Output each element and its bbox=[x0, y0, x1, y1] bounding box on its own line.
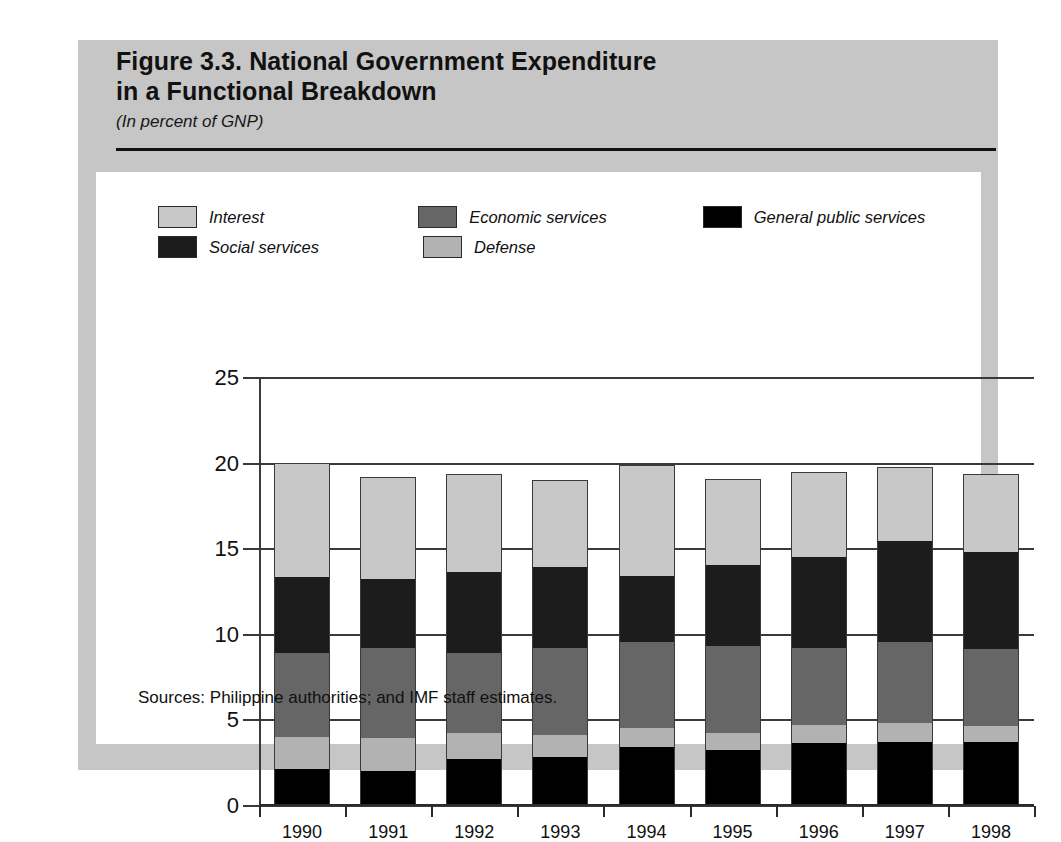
legend-swatch-general-public-services bbox=[703, 206, 742, 228]
x-axis-label-1997: 1997 bbox=[860, 822, 950, 842]
bar-segment bbox=[361, 579, 415, 647]
bar-segment bbox=[533, 481, 587, 567]
bar-segment bbox=[447, 475, 501, 573]
figure-title-line-2: in a Functional Breakdown bbox=[116, 76, 966, 106]
y-tick-5 bbox=[243, 719, 259, 721]
bar-segment bbox=[361, 738, 415, 771]
legend-label-social-services: Social services bbox=[209, 238, 319, 257]
legend-label-interest: Interest bbox=[209, 208, 264, 227]
x-tick bbox=[603, 806, 605, 817]
y-axis-label: 0 bbox=[193, 793, 239, 819]
legend-item-general-public-services: General public services bbox=[703, 204, 958, 230]
legend-item-interest: Interest bbox=[158, 204, 418, 230]
bar-segment bbox=[792, 743, 846, 805]
bar-segment bbox=[533, 735, 587, 757]
bar-segment bbox=[878, 468, 932, 542]
x-axis-label-1994: 1994 bbox=[602, 822, 692, 842]
bar-segment bbox=[706, 646, 760, 733]
x-axis-label-1993: 1993 bbox=[515, 822, 605, 842]
bar-1997[interactable] bbox=[877, 467, 933, 806]
x-tick bbox=[431, 806, 433, 817]
bar-segment bbox=[620, 466, 674, 576]
y-axis-label: 10 bbox=[193, 622, 239, 648]
bar-segment bbox=[706, 750, 760, 805]
bar-segment bbox=[964, 649, 1018, 726]
legend-row: Social services Defense bbox=[158, 234, 958, 260]
x-tick bbox=[259, 806, 261, 817]
bar-segment bbox=[964, 742, 1018, 805]
figure-heading: Figure 3.3. National Government Expendit… bbox=[116, 46, 966, 132]
bar-segment bbox=[706, 480, 760, 566]
legend-label-general-public-services: General public services bbox=[754, 208, 926, 227]
legend-item-economic-services: Economic services bbox=[418, 204, 703, 230]
legend-row: Interest Economic services General publi… bbox=[158, 204, 958, 230]
bar-segment bbox=[706, 733, 760, 750]
bar-segment bbox=[275, 464, 329, 577]
y-tick-0 bbox=[243, 805, 259, 807]
bar-1993[interactable] bbox=[532, 480, 588, 806]
bar-1996[interactable] bbox=[791, 472, 847, 806]
x-tick bbox=[517, 806, 519, 817]
bar-segment bbox=[792, 725, 846, 744]
legend-swatch-defense bbox=[423, 236, 462, 258]
y-axis-label: 20 bbox=[193, 451, 239, 477]
y-tick-25 bbox=[243, 377, 259, 379]
y-tick-20 bbox=[243, 463, 259, 465]
legend-swatch-economic-services bbox=[418, 206, 457, 228]
bar-segment bbox=[792, 473, 846, 557]
bar-segment bbox=[964, 475, 1018, 552]
x-tick bbox=[690, 806, 692, 817]
bar-segment bbox=[275, 769, 329, 805]
chart-legend: Interest Economic services General publi… bbox=[158, 204, 958, 264]
bar-segment bbox=[706, 565, 760, 645]
chart-axes: 0510152025 19901991199219931994199519961… bbox=[259, 378, 1034, 806]
bar-segment bbox=[620, 576, 674, 643]
x-tick bbox=[862, 806, 864, 817]
bar-segment bbox=[275, 737, 329, 770]
bar-1990[interactable] bbox=[274, 463, 330, 806]
y-axis-label: 25 bbox=[193, 365, 239, 391]
x-axis-line bbox=[259, 804, 1034, 806]
figure-title-line-1: Figure 3.3. National Government Expendit… bbox=[116, 46, 966, 76]
bar-segment bbox=[964, 552, 1018, 650]
bar-1998[interactable] bbox=[963, 474, 1019, 806]
bars-layer bbox=[259, 378, 1034, 806]
figure-subtitle: (In percent of GNP) bbox=[116, 112, 966, 132]
bar-segment bbox=[361, 478, 415, 579]
bar-segment bbox=[792, 648, 846, 725]
bar-1991[interactable] bbox=[360, 477, 416, 806]
legend-item-defense: Defense bbox=[423, 234, 713, 260]
source-note: Sources: Philippine authorities; and IMF… bbox=[138, 688, 557, 708]
bar-segment bbox=[447, 733, 501, 759]
bar-segment bbox=[620, 728, 674, 747]
x-axis-label-1996: 1996 bbox=[774, 822, 864, 842]
bar-1992[interactable] bbox=[446, 474, 502, 806]
legend-item-social-services: Social services bbox=[158, 234, 423, 260]
x-axis-label-1992: 1992 bbox=[429, 822, 519, 842]
bar-segment bbox=[447, 572, 501, 652]
legend-swatch-social-services bbox=[158, 236, 197, 258]
bar-segment bbox=[878, 541, 932, 642]
bar-segment bbox=[533, 757, 587, 805]
x-axis-label-1990: 1990 bbox=[257, 822, 347, 842]
bar-segment bbox=[533, 567, 587, 647]
legend-label-defense: Defense bbox=[474, 238, 535, 257]
legend-swatch-interest bbox=[158, 206, 197, 228]
x-axis-label-1995: 1995 bbox=[688, 822, 778, 842]
bar-segment bbox=[878, 742, 932, 805]
x-tick bbox=[776, 806, 778, 817]
x-tick bbox=[1034, 806, 1036, 817]
bar-1995[interactable] bbox=[705, 479, 761, 806]
bar-segment bbox=[620, 642, 674, 728]
legend-label-economic-services: Economic services bbox=[469, 208, 607, 227]
bar-segment bbox=[878, 723, 932, 742]
bar-segment bbox=[964, 726, 1018, 741]
plot-card: Interest Economic services General publi… bbox=[96, 172, 981, 744]
bar-segment bbox=[878, 642, 932, 722]
bar-segment bbox=[792, 557, 846, 648]
bar-1994[interactable] bbox=[619, 465, 675, 806]
y-axis-label: 5 bbox=[193, 707, 239, 733]
y-axis-label: 15 bbox=[193, 536, 239, 562]
x-tick bbox=[948, 806, 950, 817]
